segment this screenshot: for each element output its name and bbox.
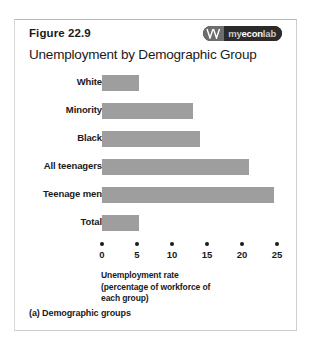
figure-card: Figure 22.9 my econ lab Unemployment by … [14,19,297,331]
x-axis-tick-label: 5 [125,249,149,260]
bar-category-label: Black [0,132,102,143]
x-axis-tick-label: 0 [90,249,114,260]
x-axis-tick-label: 25 [265,249,289,260]
myeconlab-wordmark: my econ lab [224,26,282,41]
bar-category-label: All teenagers [0,160,102,171]
bar-all-teenagers [102,159,249,175]
panel-caption: (a) Demographic groups [29,308,131,318]
bar-teenage-men [102,187,274,203]
x-axis-caption-line-1: Unemployment rate [101,270,291,282]
double-chevron-mark-icon [203,26,224,41]
bar-minority [102,103,193,119]
bar-row: Black [15,131,298,147]
x-axis-tick-dot [205,242,209,246]
x-axis-caption-line-2: (percentage of workforce of [101,282,291,294]
brand-word-my: my [228,29,241,39]
bar-category-label: Teenage men [0,188,102,199]
x-axis: 0510152025 [15,242,298,266]
bar-row: White [15,75,298,91]
x-axis-caption-line-3: each group) [101,293,291,305]
myeconlab-logo[interactable]: my econ lab [203,26,282,41]
x-axis-tick-label: 10 [160,249,184,260]
brand-word-econ: econ [241,29,262,39]
figure-title: Unemployment by Demographic Group [29,47,257,62]
brand-word-lab: lab [263,29,276,39]
bar-white [102,75,139,91]
figure-header: Figure 22.9 my econ lab [15,20,296,48]
bar-chart: WhiteMinorityBlackAll teenagersTeenage m… [15,73,298,253]
x-axis-tick-dot [135,242,139,246]
figure-number: Figure 22.9 [29,27,91,39]
x-axis-tick-dot [240,242,244,246]
bar-row: Teenage men [15,187,298,203]
bar-row: Total [15,215,298,231]
x-axis-caption: Unemployment rate (percentage of workfor… [101,270,291,305]
bar-black [102,131,200,147]
bar-row: All teenagers [15,159,298,175]
x-axis-tick-label: 15 [195,249,219,260]
x-axis-tick-dot [170,242,174,246]
x-axis-tick-dot [100,242,104,246]
bar-row: Minority [15,103,298,119]
x-axis-tick-dot [275,242,279,246]
bar-category-label: White [0,76,102,87]
bar-category-label: Total [0,216,102,227]
bar-category-label: Minority [0,104,102,115]
x-axis-tick-label: 20 [230,249,254,260]
bar-total [102,215,139,231]
